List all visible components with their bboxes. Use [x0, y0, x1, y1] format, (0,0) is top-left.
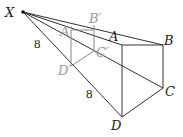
label-d: D: [110, 118, 122, 133]
label-a-prime: A′: [59, 24, 72, 39]
length-label-xd-prime: 8: [34, 36, 41, 51]
projection-diagram: X A′ B′ C′ D′ A B C D 8 8: [0, 0, 183, 137]
label-a: A: [108, 29, 118, 44]
label-c: C: [165, 84, 175, 99]
point-x: [21, 10, 25, 14]
label-b-prime: B′: [88, 11, 102, 26]
label-b: B: [163, 33, 174, 48]
edge-c-d-prime: [71, 51, 94, 66]
label-d-prime: D′: [57, 63, 71, 78]
label-c-prime: C′: [96, 45, 109, 60]
length-label-d-prime-d: 8: [86, 86, 93, 101]
label-x: X: [4, 5, 15, 20]
edge-cd: [122, 88, 163, 117]
